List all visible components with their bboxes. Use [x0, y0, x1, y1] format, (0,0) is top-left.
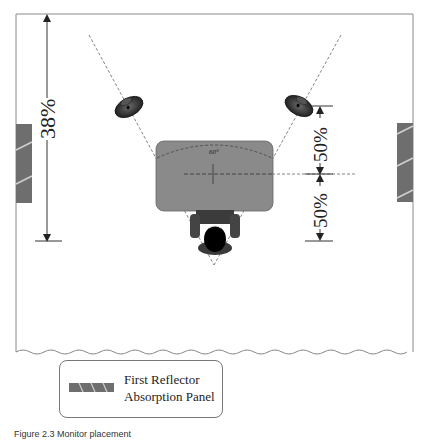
right-dimension-50-50: 50% 50% — [305, 106, 333, 241]
listener — [190, 210, 240, 255]
left-dimension-38: 38% — [35, 18, 62, 241]
right-absorption-panel — [397, 123, 413, 202]
wavy-cut-edge — [16, 350, 407, 354]
legend-line-2: Absorption Panel — [124, 388, 215, 405]
legend-label: First Reflector Absorption Panel — [124, 371, 215, 405]
mixing-desk: 60° — [156, 141, 273, 211]
left-speaker-icon — [112, 92, 147, 122]
legend-line-1: First Reflector — [124, 371, 215, 388]
legend: First Reflector Absorption Panel — [59, 360, 223, 418]
angle-label: 60° — [209, 148, 219, 156]
figure-caption: Figure 2.3 Monitor placement — [14, 429, 131, 439]
right-lower-dimension-label: 50% — [310, 193, 331, 228]
left-absorption-panel — [16, 124, 32, 203]
absorption-panel-swatch-icon — [69, 383, 114, 392]
left-dimension-label: 38% — [35, 99, 60, 139]
right-upper-dimension-label: 50% — [310, 127, 331, 162]
